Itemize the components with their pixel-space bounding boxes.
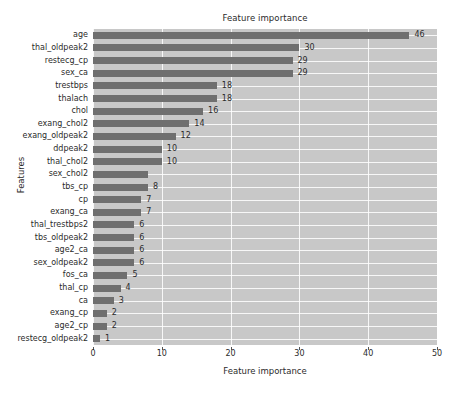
y-tick-label: ddpeak2 (0, 145, 88, 153)
chart-figure: Feature importance 463029291818161412101… (0, 0, 454, 399)
y-tick-label: thal_oldpeak2 (0, 44, 88, 52)
x-tick-label: 10 (157, 350, 167, 358)
y-tick-label: tbs_oldpeak2 (0, 234, 88, 242)
y-tick-label: thal_trestbps2 (0, 221, 88, 229)
y-tick-label: trestbps (0, 82, 88, 90)
y-tick-label: cp (0, 196, 88, 204)
y-tick-label: restecg_cp (0, 57, 88, 65)
x-tick-label: 50 (432, 350, 442, 358)
x-tick-label: 40 (363, 350, 373, 358)
y-tick-label: exang_chol2 (0, 120, 88, 128)
x-axis-tick-labels: 01020304050 (0, 347, 454, 363)
x-tick-label: 20 (226, 350, 236, 358)
y-axis-tick-labels: agethal_oldpeak2restecg_cpsex_catrestbps… (0, 29, 454, 345)
y-tick-label: thal_cp (0, 284, 88, 292)
y-tick-label: ca (0, 297, 88, 305)
y-tick-label: age2_cp (0, 322, 88, 330)
y-tick-label: age2_ca (0, 246, 88, 254)
y-tick-label: exang_cp (0, 309, 88, 317)
y-axis-label: Features (16, 145, 26, 205)
y-tick-label: thalach (0, 95, 88, 103)
y-tick-label: exang_oldpeak2 (0, 132, 88, 140)
y-tick-label: tbs_cp (0, 183, 88, 191)
y-tick-label: sex_oldpeak2 (0, 259, 88, 267)
y-tick-label: thal_chol2 (0, 158, 88, 166)
y-tick-label: age (0, 31, 88, 39)
y-tick-label: sex_ca (0, 69, 88, 77)
y-tick-label: exang_ca (0, 208, 88, 216)
x-tick-label: 0 (90, 350, 95, 358)
y-tick-label: fos_ca (0, 271, 88, 279)
x-axis-label: Feature importance (93, 366, 437, 376)
y-tick-label: restecg_oldpeak2 (0, 335, 88, 343)
y-tick-label: sex_chol2 (0, 170, 88, 178)
chart-title: Feature importance (93, 13, 437, 23)
y-tick-label: chol (0, 107, 88, 115)
x-tick-label: 30 (294, 350, 304, 358)
